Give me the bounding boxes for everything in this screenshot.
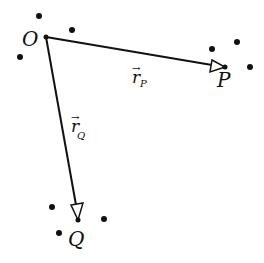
label-r-p: → r P [132, 63, 147, 89]
label-p: P [216, 68, 231, 92]
arrowhead-q-icon [71, 203, 83, 220]
point-q [76, 218, 81, 223]
label-q: Q [68, 227, 84, 251]
label-o: O [22, 27, 38, 51]
diagram-svg: O P Q → r P → r Q [0, 0, 264, 263]
point-o [44, 35, 49, 40]
r-p-subscript: P [139, 78, 147, 89]
label-r-q: → r Q [71, 112, 85, 141]
vector-diagram: O P Q → r P → r Q [0, 0, 264, 263]
r-q-subscript: Q [77, 130, 85, 141]
